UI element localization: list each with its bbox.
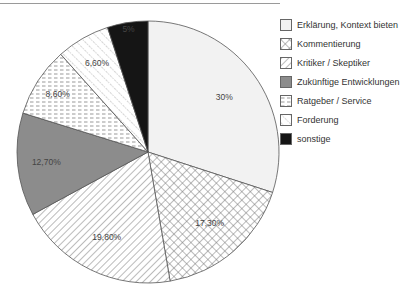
legend-item-erklaerung: Erklärung, Kontext bieten — [280, 19, 400, 38]
pie-slices — [17, 21, 279, 283]
legend-label: Kritiker / Skeptiker — [297, 57, 370, 69]
slice-value-label: 30% — [216, 92, 233, 102]
slice-value-label: 12,70% — [32, 157, 61, 167]
legend-item-kritiker: Kritiker / Skeptiker — [280, 57, 400, 76]
legend-item-forderung: Forderung — [280, 114, 400, 133]
legend-swatch-dotted-diagonal-icon — [280, 114, 292, 126]
slice-value-label: 17,30% — [195, 218, 224, 228]
slice-value-label: 8,60% — [46, 89, 71, 99]
legend-item-kommentierung: Kommentierung — [280, 38, 400, 57]
legend-label: Erklärung, Kontext bieten — [297, 19, 398, 31]
legend-swatch-dashes-icon — [280, 95, 292, 107]
legend-swatch-black-icon — [280, 133, 292, 145]
legend-swatch-diagonal-icon — [280, 57, 292, 69]
legend-item-zukuenftige: Zukünftige Entwicklungen — [280, 76, 400, 95]
legend-label: Kommentierung — [297, 38, 361, 50]
slice-value-label: 6,60% — [85, 58, 110, 68]
legend-swatch-solid-gray-icon — [280, 76, 292, 88]
legend-label: sonstige — [297, 133, 331, 145]
legend-label: Zukünftige Entwicklungen — [297, 76, 400, 88]
slice-value-label: 5% — [122, 24, 135, 34]
slice-value-label: 19,80% — [92, 232, 121, 242]
legend-swatch-crosshatch-icon — [280, 38, 292, 50]
legend: Erklärung, Kontext bieten Kommentierung … — [280, 19, 400, 152]
legend-label: Ratgeber / Service — [297, 95, 372, 107]
legend-swatch-light-gray-icon — [280, 19, 292, 31]
legend-label: Forderung — [297, 114, 339, 126]
legend-item-ratgeber: Ratgeber / Service — [280, 95, 400, 114]
legend-item-sonstige: sonstige — [280, 133, 400, 152]
